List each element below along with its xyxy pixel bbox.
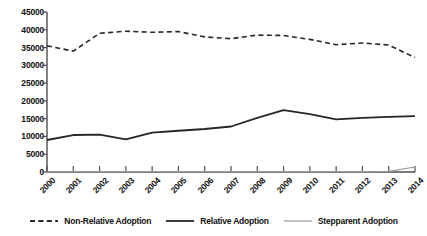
line-chart: 0500010000150002000025000300003500040000… [0, 0, 427, 236]
x-tick-label-2008: 2008 [240, 176, 267, 203]
solid-bold-line-swatch [165, 217, 195, 225]
x-tick-label-2007: 2007 [214, 176, 241, 203]
solid-thin-gray-line-swatch [283, 217, 313, 225]
x-tick-label-2013: 2013 [371, 176, 398, 203]
x-tick-label-2009: 2009 [266, 176, 293, 203]
x-tick-label-2011: 2011 [319, 176, 346, 203]
x-tick-label-2012: 2012 [345, 176, 372, 203]
chart-legend: Non-Relative AdoptionRelative AdoptionSt… [0, 205, 427, 236]
x-tick-label-2004: 2004 [135, 176, 162, 203]
x-axis-labels: 2000200120022003200420052006200720082009… [0, 0, 427, 205]
legend-item-relative-adoption[interactable]: Relative Adoption [165, 216, 269, 226]
legend-label: Relative Adoption [200, 216, 269, 226]
x-tick-label-2010: 2010 [293, 176, 320, 203]
x-tick-label-2000: 2000 [30, 176, 57, 203]
x-tick-label-2006: 2006 [187, 176, 214, 203]
legend-label: Non-Relative Adoption [64, 216, 151, 226]
x-tick-label-2005: 2005 [161, 176, 188, 203]
dashed-line-swatch [29, 217, 59, 225]
x-tick-label-2002: 2002 [82, 176, 109, 203]
plot-area: 0500010000150002000025000300003500040000… [0, 0, 427, 205]
x-tick-label-2001: 2001 [56, 176, 83, 203]
legend-item-stepparent-adoption[interactable]: Stepparent Adoption [283, 216, 398, 226]
x-tick-label-2003: 2003 [109, 176, 136, 203]
legend-item-non-relative-adoption[interactable]: Non-Relative Adoption [29, 216, 151, 226]
legend-label: Stepparent Adoption [318, 216, 398, 226]
x-tick-label-2014: 2014 [398, 176, 425, 203]
